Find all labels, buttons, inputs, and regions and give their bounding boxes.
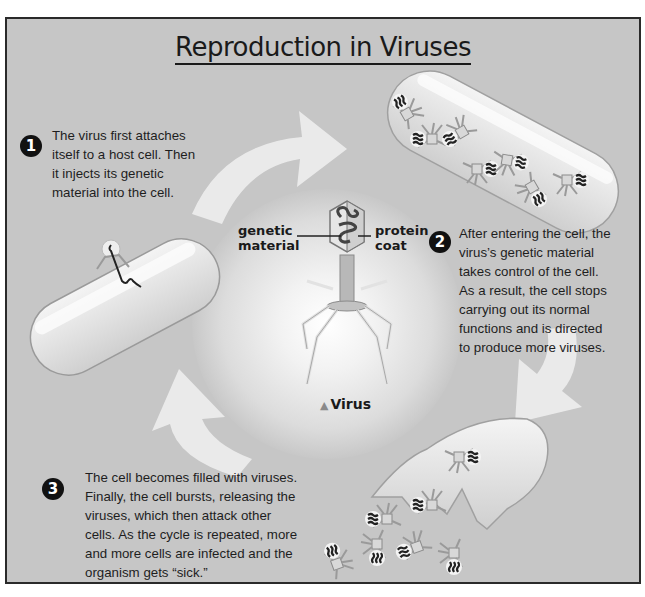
infected-cell-step2 [373,56,633,248]
step-3-text: The cell becomes filled with viruses. Fi… [85,468,325,582]
step-3-line: organism gets “sick.” [85,563,325,582]
step-3-line: Finally, the cell bursts, releasing the [85,487,325,506]
genetic-material-label: genetic material [238,223,299,253]
step-1-text: The virus first attaches itself to a hos… [52,126,252,202]
step-2-line: functions and is directed [459,319,639,338]
material-label-line: material [238,238,299,253]
triangle-marker-icon: ▲ [320,399,328,412]
step-3-line: and more cells are infected and the [85,544,325,563]
step-2-line: As a result, the cell stops [459,281,639,300]
step-1-line: it injects its genetic [52,164,252,183]
diagram-frame: Reproduction in Viruses 1 The virus firs… [5,17,641,584]
step-2-line: virus’s genetic material [459,243,639,262]
step-3-badge: 3 [42,478,64,500]
step-2-line: takes control of the cell. [459,262,639,281]
step-1-line: The virus first attaches [52,126,252,145]
step-3-line: viruses, which then attack other [85,506,325,525]
coat-label-line: coat [375,238,428,253]
protein-coat-label: protein coat [375,223,428,253]
step-2-badge: 2 [429,231,451,253]
bursting-cell-step3 [322,418,548,580]
host-cell-step1 [17,226,233,389]
step-1-line: itself to a host cell. Then [52,145,252,164]
virus-caption-text: Virus [330,396,371,412]
virus-caption: ▲Virus [320,396,371,412]
step-2-line: carrying out its normal [459,300,639,319]
step-2-line: After entering the cell, the [459,224,639,243]
step-2-text: After entering the cell, the virus’s gen… [459,224,639,357]
cycle-arrow-left [152,369,252,477]
step-3-line: cells. As the cycle is repeated, more [85,525,325,544]
step-1-line: material into the cell. [52,183,252,202]
page-title: Reproduction in Viruses [7,32,639,62]
genetic-label-line: genetic [238,223,299,238]
protein-label-line: protein [375,223,428,238]
step-3-line: The cell becomes filled with viruses. [85,468,325,487]
step-1-badge: 1 [20,135,42,157]
step-2-line: to produce more viruses. [459,338,639,357]
